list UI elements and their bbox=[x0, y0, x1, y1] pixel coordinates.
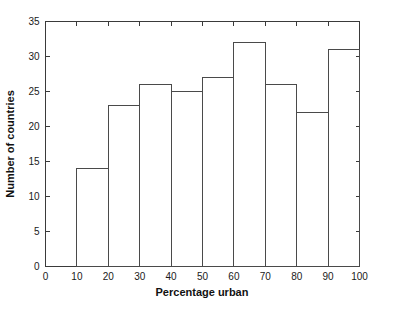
x-axis-title: Percentage urban bbox=[156, 286, 249, 298]
y-tick-label: 10 bbox=[28, 191, 40, 202]
y-tick-label: 30 bbox=[28, 51, 40, 62]
figure-background bbox=[0, 0, 401, 309]
x-tick-label: 80 bbox=[291, 271, 303, 282]
x-tick-label: 100 bbox=[351, 271, 368, 282]
x-tick-label: 90 bbox=[323, 271, 335, 282]
y-tick-label: 35 bbox=[28, 16, 40, 27]
x-tick-label: 20 bbox=[103, 271, 115, 282]
x-tick-label: 70 bbox=[260, 271, 272, 282]
y-tick-label: 15 bbox=[28, 156, 40, 167]
x-tick-label: 40 bbox=[166, 271, 178, 282]
y-tick-label: 5 bbox=[34, 226, 40, 237]
y-tick-label: 25 bbox=[28, 86, 40, 97]
histogram-figure: 0102030405060708090100 05101520253035 Pe… bbox=[0, 0, 401, 309]
x-tick-label: 50 bbox=[197, 271, 209, 282]
x-tick-label: 0 bbox=[43, 271, 49, 282]
chart-canvas: 0102030405060708090100 05101520253035 Pe… bbox=[0, 0, 401, 309]
x-tick-label: 60 bbox=[228, 271, 240, 282]
y-tick-label: 0 bbox=[34, 261, 40, 272]
x-tick-label: 10 bbox=[71, 271, 83, 282]
y-tick-label: 20 bbox=[28, 121, 40, 132]
y-axis-title: Number of countries bbox=[4, 90, 16, 198]
x-tick-label: 30 bbox=[134, 271, 146, 282]
